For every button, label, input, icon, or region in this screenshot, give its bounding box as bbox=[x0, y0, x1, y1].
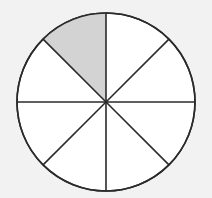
spoke-lines bbox=[17, 13, 195, 191]
fraction-circle-diagram bbox=[0, 0, 212, 198]
